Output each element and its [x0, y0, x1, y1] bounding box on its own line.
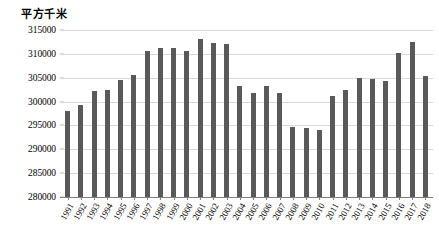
- bar-slot: [207, 30, 220, 197]
- x-axis-tick: 1995: [114, 198, 127, 241]
- y-axis-tick-label: 315000: [28, 25, 56, 35]
- x-axis-tick-mark: [386, 197, 387, 200]
- x-axis-tick-mark: [346, 197, 347, 200]
- bar-slot: [419, 30, 432, 197]
- bar[interactable]: [290, 127, 295, 197]
- bar-slot: [194, 30, 207, 197]
- x-axis-tick: 1997: [141, 198, 154, 241]
- x-axis-tick-mark: [425, 197, 426, 200]
- bar[interactable]: [251, 93, 256, 197]
- bar[interactable]: [264, 86, 269, 197]
- bar[interactable]: [224, 44, 229, 197]
- x-axis-tick-mark: [68, 197, 69, 200]
- x-axis-tick: 2001: [194, 198, 207, 241]
- bar[interactable]: [145, 51, 150, 197]
- bar[interactable]: [330, 96, 335, 197]
- plot-wrapper: 3150003100003050003000002950002900002850…: [0, 30, 439, 197]
- bar-chart: 平方千米 31500031000030500030000029500029000…: [0, 0, 439, 241]
- bar[interactable]: [383, 81, 388, 197]
- x-axis-tick-mark: [359, 197, 360, 200]
- bar[interactable]: [184, 51, 189, 197]
- bar[interactable]: [317, 130, 322, 197]
- x-axis-tick: 2018: [419, 198, 432, 241]
- bar[interactable]: [131, 75, 136, 197]
- bar[interactable]: [237, 86, 242, 197]
- y-axis-tick-label: 305000: [28, 73, 56, 83]
- x-axis-tick: 2003: [220, 198, 233, 241]
- x-axis-tick: 2004: [233, 198, 246, 241]
- bar[interactable]: [118, 80, 123, 197]
- x-axis-tick: 1992: [74, 198, 87, 241]
- bar-slot: [61, 30, 74, 197]
- y-axis-tick-label: 300000: [28, 97, 56, 107]
- bar[interactable]: [211, 43, 216, 197]
- bar-slot: [127, 30, 140, 197]
- x-axis-tick: 1991: [61, 198, 74, 241]
- bar[interactable]: [65, 111, 70, 197]
- bar[interactable]: [396, 53, 401, 197]
- x-axis-tick-mark: [227, 197, 228, 200]
- x-axis-tick: 2012: [339, 198, 352, 241]
- x-axis-tick-mark: [266, 197, 267, 200]
- x-axis-tick: 2002: [207, 198, 220, 241]
- y-axis-tick-label: 280000: [28, 192, 56, 202]
- y-axis-unit-label: 平方千米: [21, 8, 67, 21]
- bar[interactable]: [370, 79, 375, 197]
- bar[interactable]: [423, 76, 428, 197]
- bar[interactable]: [198, 39, 203, 197]
- x-axis-tick: 2000: [180, 198, 193, 241]
- x-axis-tick: 1998: [154, 198, 167, 241]
- bar[interactable]: [410, 42, 415, 197]
- bar[interactable]: [171, 48, 176, 197]
- x-axis-tick-mark: [200, 197, 201, 200]
- bar[interactable]: [158, 48, 163, 197]
- bar-slot: [273, 30, 286, 197]
- x-axis-tick-mark: [160, 197, 161, 200]
- bar-slot: [326, 30, 339, 197]
- bar-slot: [366, 30, 379, 197]
- bar-slot: [392, 30, 405, 197]
- x-axis-tick-mark: [94, 197, 95, 200]
- bar[interactable]: [304, 128, 309, 197]
- x-axis-tick-mark: [253, 197, 254, 200]
- x-axis-tick: 2016: [392, 198, 405, 241]
- x-axis-tick-mark: [147, 197, 148, 200]
- x-axis-tick: 1996: [127, 198, 140, 241]
- x-axis-tick: 2007: [273, 198, 286, 241]
- plot-area: [60, 30, 433, 198]
- bar[interactable]: [357, 78, 362, 197]
- bar-slot: [260, 30, 273, 197]
- y-axis-tick-label: 285000: [28, 168, 56, 178]
- y-axis: 3150003100003050003000002950002900002850…: [0, 30, 60, 197]
- bar-slot: [180, 30, 193, 197]
- bar-slot: [406, 30, 419, 197]
- bars-layer: [60, 30, 433, 197]
- bar-slot: [379, 30, 392, 197]
- bar-slot: [114, 30, 127, 197]
- bar-slot: [247, 30, 260, 197]
- x-axis-tick: 2010: [313, 198, 326, 241]
- bar[interactable]: [78, 105, 83, 197]
- x-axis-tick: 1993: [88, 198, 101, 241]
- bar-slot: [167, 30, 180, 197]
- bar[interactable]: [92, 91, 97, 197]
- x-axis-tick: 2011: [326, 198, 339, 241]
- x-axis-tick: 2006: [260, 198, 273, 241]
- x-axis-tick-mark: [293, 197, 294, 200]
- bar[interactable]: [105, 90, 110, 197]
- x-axis-tick: 2005: [247, 198, 260, 241]
- x-axis-tick-mark: [319, 197, 320, 200]
- x-axis-tick-mark: [134, 197, 135, 200]
- bar-slot: [88, 30, 101, 197]
- x-axis-tick-mark: [412, 197, 413, 200]
- x-axis-tick-mark: [187, 197, 188, 200]
- bar-slot: [101, 30, 114, 197]
- x-axis-tick-mark: [240, 197, 241, 200]
- y-axis-tick-label: 310000: [28, 49, 56, 59]
- bar-slot: [220, 30, 233, 197]
- x-axis-tick-mark: [399, 197, 400, 200]
- x-axis-tick: 1994: [101, 198, 114, 241]
- bar[interactable]: [343, 90, 348, 197]
- bar[interactable]: [277, 93, 282, 197]
- bar-slot: [300, 30, 313, 197]
